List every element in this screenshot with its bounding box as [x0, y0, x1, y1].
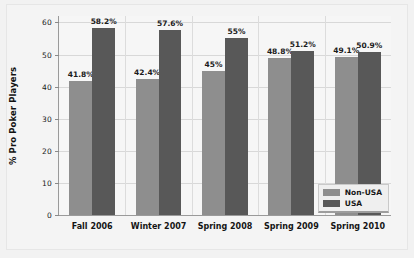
bar-non-usa: 45% — [202, 71, 225, 215]
bar-group: 48.8%51.2%Spring 2009 — [258, 16, 324, 215]
y-tick-label: 10 — [42, 178, 52, 187]
y-axis-label: % Pro Poker Players — [6, 16, 20, 215]
y-axis-label-text: % Pro Poker Players — [8, 66, 18, 164]
bar-group: 45%55%Spring 2008 — [192, 16, 258, 215]
bar-group: 42.4%57.6%Winter 2007 — [125, 16, 191, 215]
bar-value-label: 48.8% — [267, 47, 293, 56]
x-tick-label: Spring 2009 — [264, 222, 319, 231]
bar-value-label: 50.9% — [356, 41, 382, 50]
bar-non-usa: 48.8% — [268, 58, 291, 215]
x-tick-label: Winter 2007 — [131, 222, 187, 231]
bar-value-label: 45% — [205, 60, 223, 69]
bar-value-label: 51.2% — [290, 40, 316, 49]
chart-figure: % Pro Poker Players 0102030405060 41.8%5… — [0, 0, 414, 258]
y-tick-label: 60 — [42, 18, 52, 27]
bar-value-label: 41.8% — [68, 70, 94, 79]
legend-swatch-icon — [323, 189, 340, 196]
y-tick-label: 0 — [47, 211, 52, 220]
bar-non-usa: 42.4% — [136, 79, 159, 215]
bar-group: 41.8%58.2%Fall 2006 — [59, 16, 125, 215]
bar-value-label: 55% — [227, 27, 245, 36]
y-tick-label: 20 — [42, 146, 52, 155]
legend-swatch-icon — [323, 200, 340, 207]
bar-usa: 51.2% — [291, 51, 314, 215]
y-tick-label: 50 — [42, 50, 52, 59]
legend-item-label: USA — [345, 199, 362, 208]
bar-value-label: 42.4% — [134, 68, 160, 77]
x-tick-label: Spring 2010 — [330, 222, 385, 231]
bar-non-usa: 41.8% — [69, 81, 92, 215]
bar-usa: 55% — [225, 38, 248, 215]
legend-item[interactable]: Non-USA — [323, 188, 382, 197]
bar-value-label: 58.2% — [91, 17, 117, 26]
x-tick-label: Fall 2006 — [72, 222, 113, 231]
bar-usa: 58.2% — [92, 28, 115, 215]
x-tick-label: Spring 2008 — [198, 222, 253, 231]
plot-area: 0102030405060 41.8%58.2%Fall 200642.4%57… — [58, 16, 391, 216]
y-tick-label: 40 — [42, 82, 52, 91]
legend-item[interactable]: USA — [323, 199, 382, 208]
bar-value-label: 57.6% — [157, 19, 183, 28]
y-tick-label: 30 — [42, 114, 52, 123]
bar-usa: 57.6% — [159, 30, 182, 215]
legend-item-label: Non-USA — [345, 188, 382, 197]
y-tick-mark — [55, 215, 59, 216]
chart-legend: Non-USAUSA — [318, 184, 389, 213]
